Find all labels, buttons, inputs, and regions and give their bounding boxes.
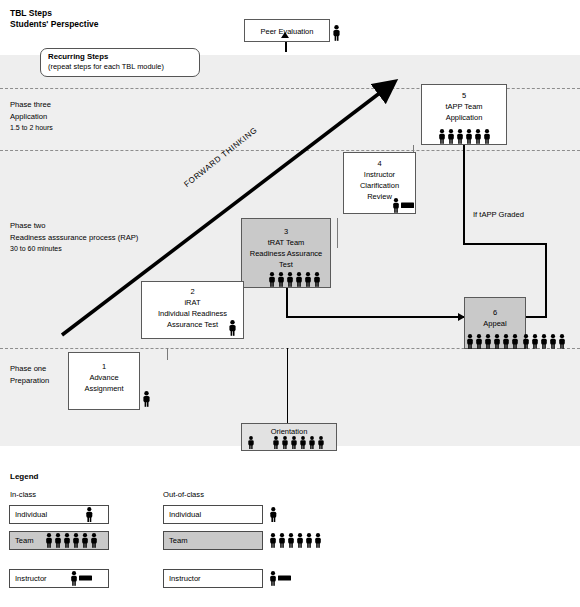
person-icon: [269, 507, 278, 522]
phase-one-detail: Preparation: [10, 375, 49, 387]
legend-in-class-instructor-label: Instructor: [15, 574, 47, 583]
arrow-up-icon-peer-eval: [281, 32, 289, 38]
orientation-label: Orientation: [271, 427, 308, 436]
legend-out-of-class-instructor-label: Instructor: [169, 574, 201, 583]
page-title-line2: Students' Perspective: [10, 19, 98, 30]
step-3-line1: tRAT Team: [242, 237, 330, 248]
phase-three-detail: Application: [10, 111, 53, 123]
page-title: TBL Steps Students' Perspective: [10, 8, 98, 30]
legend-col-header-out-of-class: Out-of-class: [163, 490, 204, 499]
diagram-canvas: TBL Steps Students' Perspective Recurrin…: [0, 0, 580, 607]
connector-peer-eval-stem: [285, 42, 287, 52]
phase-three-name: Phase three: [10, 99, 53, 111]
legend-out-of-class-team: Team: [163, 531, 263, 550]
recurring-steps-subtext: (repeat steps for each TBL module): [48, 62, 199, 71]
legend-in-class-team-icon-wrap: [45, 533, 103, 548]
step-3-people: [268, 272, 326, 287]
team-people-icon: [269, 533, 327, 548]
step-5-line2: Application: [422, 112, 506, 123]
step-3-line2: Readiness Assurance: [242, 248, 330, 259]
recurring-steps-callout: Recurring Steps (repeat steps for each T…: [40, 48, 200, 77]
legend-in-class-instructor-icon-wrap: [70, 571, 98, 586]
legend-out-of-class-instructor-icon-wrap: [269, 571, 297, 586]
phase-two-duration: 30 to 60 minutes: [10, 243, 138, 255]
legend-in-class-individual-icon-wrap: [85, 507, 94, 522]
recurring-steps-heading: Recurring Steps: [48, 52, 199, 61]
step-3-line3: Test: [242, 259, 330, 270]
phase-three-label: Phase three Application 1.5 to 2 hours: [10, 99, 53, 134]
legend-title: Legend: [10, 472, 38, 481]
if-tapp-graded-label: If tAPP Graded: [473, 210, 524, 219]
team-people-icon: [466, 334, 576, 349]
orientation-team: [272, 436, 330, 449]
legend-in-class-individual-label: Individual: [15, 510, 47, 519]
orientation-individual: [247, 436, 256, 449]
person-icon: [332, 25, 341, 41]
divider-dashed-phase-three: [0, 150, 580, 151]
step-1-line2: Assignment: [69, 383, 139, 394]
connector-tapp-graded-horizontal: [463, 243, 547, 245]
step-2-person: [228, 320, 237, 336]
phase-one-label: Phase one Preparation: [10, 363, 49, 386]
step-3-number: 3: [242, 226, 330, 237]
legend-out-of-class-team-label: Team: [169, 536, 188, 545]
step-4-number: 4: [344, 158, 415, 169]
connector-step3-to-step6: [286, 316, 466, 318]
connector-orientation-vertical: [287, 348, 288, 423]
phase-three-duration: 1.5 to 2 hours: [10, 122, 53, 134]
phase-two-name: Phase two: [10, 220, 138, 232]
person-icon: [85, 507, 94, 522]
step-2-line1: iRAT: [142, 297, 243, 308]
step-5-line1: tAPP Team: [422, 101, 506, 112]
connector-step3-down: [286, 288, 288, 318]
person-icon: [142, 391, 151, 407]
team-people-icon: [268, 272, 326, 287]
step-1-box[interactable]: 1 Advance Assignment: [68, 352, 140, 410]
connector-tapp-graded-down: [545, 243, 547, 317]
step-1-number: 1: [69, 361, 139, 372]
team-people-icon: [272, 436, 330, 449]
person-icon: [247, 436, 256, 449]
legend-out-of-class-individual-icon-wrap: [269, 507, 278, 522]
step-4-line1: Instructor: [344, 169, 415, 180]
legend-col-header-in-class: In-class: [10, 490, 36, 499]
step-6-number: 6: [465, 307, 525, 318]
legend-in-class-individual: Individual: [9, 505, 109, 524]
step-6-people: [466, 334, 576, 349]
step-6-line1: Appeal: [465, 318, 525, 329]
step-1-line1: Advance: [69, 372, 139, 383]
step-4-line2: Clarification: [344, 180, 415, 191]
team-people-icon: [438, 129, 496, 144]
phase-two-detail: Readiness asssurance process (RAP): [10, 232, 138, 244]
step-2-number: 2: [142, 286, 243, 297]
instructor-person-board-icon: [70, 571, 98, 586]
connector-step4-stub: [337, 218, 338, 248]
phase-two-label: Phase two Readiness asssurance process (…: [10, 220, 138, 255]
legend-out-of-class-individual: Individual: [163, 505, 263, 524]
peer-evaluation-box[interactable]: Peer Evaluation: [244, 19, 330, 42]
step-5-number: 5: [422, 90, 506, 101]
legend-out-of-class-instructor: Instructor: [163, 569, 263, 588]
step-1-person: [142, 391, 151, 407]
page-title-line1: TBL Steps: [10, 8, 98, 19]
legend-out-of-class-team-icon-wrap: [269, 533, 327, 548]
phase-one-name: Phase one: [10, 363, 49, 375]
connector-step5-down: [463, 145, 465, 245]
peer-evaluation-people: [332, 25, 341, 41]
step-5-people: [438, 129, 496, 144]
person-icon: [228, 320, 237, 336]
team-people-icon: [45, 533, 103, 548]
step-2-line2: Individual Readiness: [142, 308, 243, 319]
legend-in-class-team-label: Team: [15, 536, 34, 545]
legend-out-of-class-individual-label: Individual: [169, 510, 201, 519]
instructor-person-board-icon: [269, 571, 297, 586]
connector-step1-stub: [167, 348, 168, 360]
step-4-instructor: [392, 198, 418, 213]
instructor-person-board-icon: [392, 198, 418, 213]
